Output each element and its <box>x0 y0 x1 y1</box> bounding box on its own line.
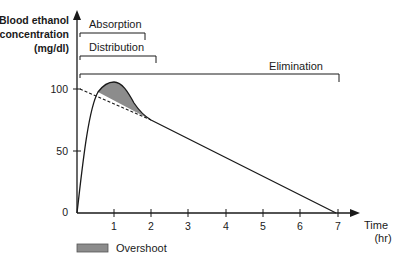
y-axis-arrow-icon <box>73 10 81 20</box>
x-tick-5: 5 <box>260 220 266 232</box>
y-axis-label-line3: (mg/dl) <box>34 42 69 54</box>
y-tick-0: 0 <box>62 206 68 218</box>
x-axis-label-line1: Time <box>364 219 388 231</box>
chart: Blood ethanol concentration (mg/dl) 0 50… <box>0 0 402 266</box>
x-axis-label-line2: (hr) <box>374 232 391 244</box>
legend-swatch-overshoot <box>77 244 108 252</box>
x-tick-4: 4 <box>223 220 229 232</box>
y-axis-label-line1: Blood ethanol <box>0 14 69 26</box>
legend: Overshoot <box>77 242 167 254</box>
phase-elimination-label: Elimination <box>269 60 323 72</box>
x-tick-1: 1 <box>111 220 117 232</box>
phase-elimination: Elimination <box>80 60 339 82</box>
y-tick-100: 100 <box>50 83 68 95</box>
y-tick-50: 50 <box>56 145 68 157</box>
concentration-curve <box>77 82 336 213</box>
x-tick-6: 6 <box>297 220 303 232</box>
phase-distribution-label: Distribution <box>89 41 144 53</box>
phase-distribution: Distribution <box>80 41 156 63</box>
x-axis-arrow-icon <box>350 209 360 217</box>
legend-label-overshoot: Overshoot <box>116 242 167 254</box>
phase-absorption-label: Absorption <box>89 18 142 30</box>
x-tick-3: 3 <box>185 220 191 232</box>
y-axis-label-line2: concentration <box>0 28 69 40</box>
x-tick-7: 7 <box>335 220 341 232</box>
phase-absorption: Absorption <box>80 18 145 40</box>
x-tick-2: 2 <box>148 220 154 232</box>
